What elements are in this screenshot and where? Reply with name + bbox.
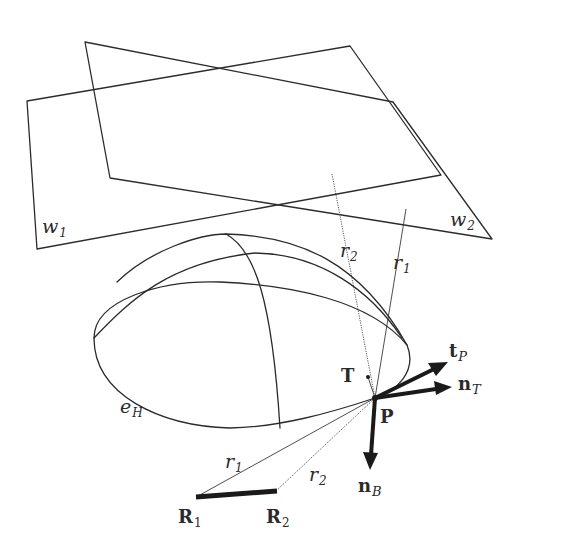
label-P: P (380, 406, 394, 427)
T-point (366, 375, 370, 379)
arrowhead-nT (434, 381, 452, 395)
label-T: T (341, 365, 355, 386)
label-R2: R2 (266, 506, 290, 530)
label-nB: nB (358, 475, 382, 499)
P-point (372, 395, 378, 401)
label-eH: eH (120, 395, 143, 420)
label-tP: tP (449, 340, 467, 364)
label-R1: R1 (178, 506, 202, 530)
plane-w2 (85, 42, 492, 239)
plane-w1 (27, 46, 441, 249)
label-r2-lower: r2 (309, 463, 327, 488)
diagram-canvas: w1 w2 eH r2 r1 r1 r2 T P R1 R2 tP nT nB (0, 0, 572, 551)
label-r1-upper: r1 (393, 251, 411, 276)
label-w2: w2 (450, 208, 475, 233)
vector-nB (371, 398, 375, 455)
ellipsoid-inner-arc (94, 253, 402, 338)
label-w1: w1 (42, 215, 67, 240)
label-r2-upper: r2 (340, 239, 358, 264)
segment-R1-R2 (196, 491, 277, 497)
ray-r1-upper (375, 209, 406, 398)
ellipsoid-meridian (226, 234, 280, 428)
ellipsoid-upper-arc (117, 234, 407, 345)
ray-r1-lower (198, 398, 375, 496)
label-nT: nT (458, 373, 482, 397)
label-r1-lower: r1 (225, 450, 243, 475)
arrowhead-nB (363, 452, 378, 470)
